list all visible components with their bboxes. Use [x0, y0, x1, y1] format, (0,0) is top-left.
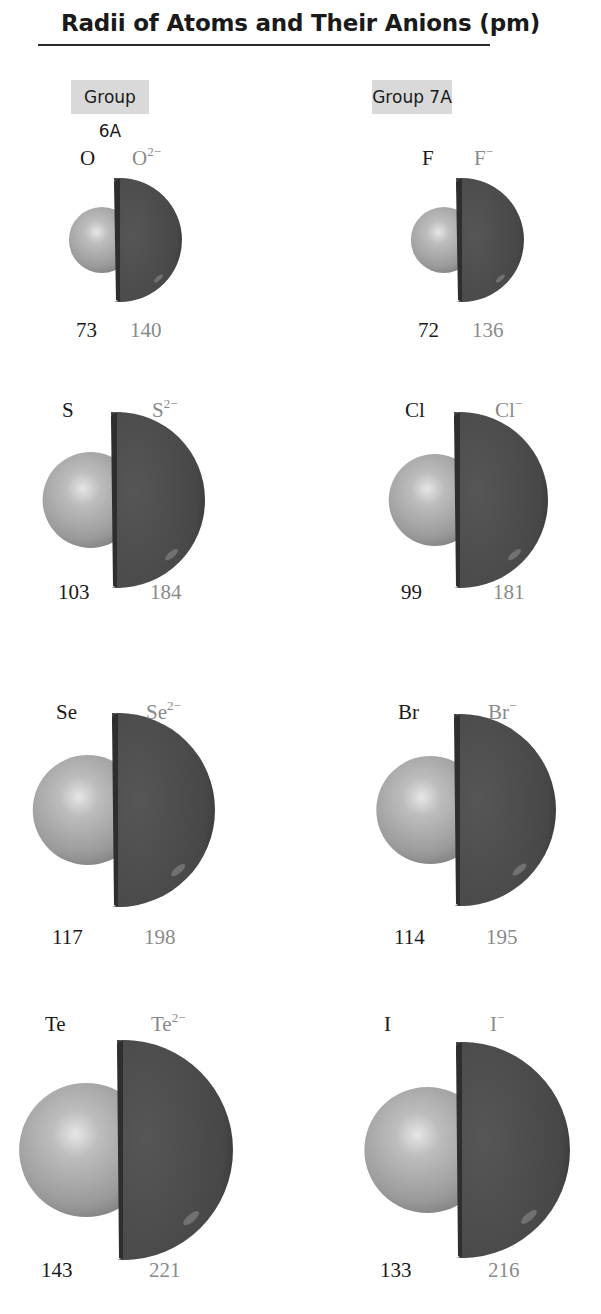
anion-charge-i: − — [497, 1010, 504, 1025]
atom-radius-i: 133 — [380, 1258, 412, 1283]
atom-symbol-i: I — [384, 1012, 391, 1037]
anion-radius-i: 216 — [488, 1258, 520, 1283]
anion-symbol-i: I− — [490, 1010, 504, 1037]
sphere-pair-i — [0, 0, 601, 1314]
anion-base-i: I — [490, 1012, 497, 1036]
